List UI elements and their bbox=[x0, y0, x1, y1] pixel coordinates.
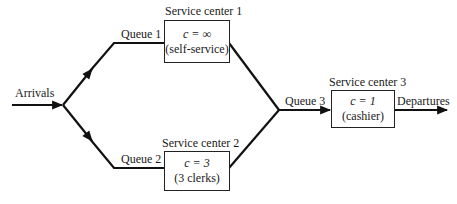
service-center-1-box: c = ∞ (self-service) bbox=[164, 20, 230, 63]
queue-1-line bbox=[90, 43, 164, 71]
service-center-2-title: Service center 2 bbox=[162, 137, 239, 149]
arrivals-label: Arrivals bbox=[15, 87, 54, 99]
service-center-1-description: (self-service) bbox=[165, 42, 228, 57]
queue-3-label: Queue 3 bbox=[285, 95, 325, 107]
departures-label: Departures bbox=[397, 95, 450, 107]
merge-upper-line bbox=[229, 43, 279, 110]
service-center-3-box: c = 1 (cashier) bbox=[331, 90, 395, 128]
service-center-1-capacity: c = ∞ bbox=[183, 27, 211, 42]
queue-2-label: Queue 2 bbox=[121, 153, 161, 165]
service-center-2-description: (3 clerks) bbox=[174, 171, 220, 186]
service-center-3-description: (cashier) bbox=[342, 109, 384, 124]
queue-1-label: Queue 1 bbox=[121, 28, 161, 40]
branch-lower-arrow bbox=[63, 105, 92, 141]
service-center-2-box: c = 3 (3 clerks) bbox=[164, 151, 230, 191]
service-center-2-capacity: c = 3 bbox=[184, 156, 209, 171]
service-center-1-title: Service center 1 bbox=[165, 5, 242, 17]
service-center-3-capacity: c = 1 bbox=[350, 94, 375, 109]
service-center-3-title: Service center 3 bbox=[329, 76, 406, 88]
branch-upper-arrow bbox=[63, 69, 92, 105]
queueing-network-diagram: Arrivals Queue 1 Queue 2 Queue 3 Departu… bbox=[0, 0, 457, 204]
